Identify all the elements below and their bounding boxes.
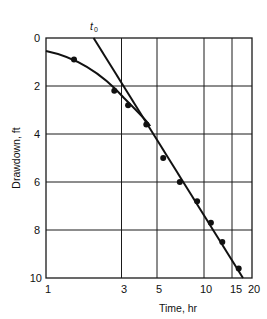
svg-text:0: 0 xyxy=(94,26,98,33)
x-tick: 1 xyxy=(45,283,51,295)
y-tick: 8 xyxy=(34,224,40,236)
drawdown-chart: 0 2 4 6 8 10 1 3 5 10 15 20 Time, hr Dra… xyxy=(0,0,267,319)
type-curve xyxy=(46,51,150,126)
x-tick: 10 xyxy=(200,283,212,295)
x-tick: 3 xyxy=(121,283,127,295)
x-tick: 20 xyxy=(248,283,260,295)
y-tick: 6 xyxy=(34,176,40,188)
x-tick: 5 xyxy=(156,283,162,295)
y-tick: 10 xyxy=(30,272,42,284)
y-tick: 4 xyxy=(34,128,40,140)
y-axis-label: Drawdown, ft xyxy=(10,127,22,188)
t0-annotation: t 0 xyxy=(90,20,98,33)
y-tick: 0 xyxy=(34,32,40,44)
x-tick: 15 xyxy=(230,283,242,295)
y-tick-labels: 0 2 4 6 8 10 xyxy=(30,32,42,284)
x-tick-labels: 1 3 5 10 15 20 xyxy=(45,283,260,295)
data-points xyxy=(71,57,242,272)
y-tick: 2 xyxy=(34,80,40,92)
x-axis-label: Time, hr xyxy=(159,302,198,314)
